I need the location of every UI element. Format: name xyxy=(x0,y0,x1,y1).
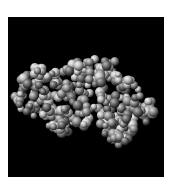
atom-sphere xyxy=(102,61,112,71)
atom-sphere xyxy=(76,82,83,89)
atom-sphere xyxy=(121,137,129,145)
atom-sphere xyxy=(62,84,71,93)
atom-sphere xyxy=(107,118,116,127)
atom-sphere xyxy=(58,121,67,130)
atom-sphere xyxy=(17,91,23,97)
atom-sphere xyxy=(42,103,51,112)
atom-sphere xyxy=(35,81,43,89)
atom-sphere xyxy=(124,75,134,85)
atom-sphere xyxy=(102,123,108,129)
atom-sphere xyxy=(29,92,38,101)
atom-sphere xyxy=(72,117,82,127)
atom-sphere xyxy=(61,105,69,113)
atom-sphere xyxy=(143,118,150,125)
atom-sphere xyxy=(110,57,119,66)
atom-sphere xyxy=(91,104,97,110)
atom-sphere xyxy=(23,108,31,116)
atom-sphere xyxy=(144,97,152,105)
atom-sphere xyxy=(74,61,84,71)
atom-sphere xyxy=(110,98,120,108)
atom-sphere xyxy=(101,130,108,137)
atom-sphere xyxy=(23,79,33,89)
atom-sphere xyxy=(115,77,123,85)
molecule-image-frame xyxy=(8,17,164,177)
atom-sphere xyxy=(73,100,83,110)
atom-sphere xyxy=(16,101,24,109)
atom-sphere xyxy=(115,72,121,78)
protein-space-filling-model xyxy=(8,17,164,177)
atom-sphere xyxy=(133,107,143,117)
atom-sphere xyxy=(97,96,105,104)
atom-sphere xyxy=(40,89,47,96)
atom-sphere xyxy=(80,121,87,128)
atom-sphere xyxy=(82,108,91,117)
atom-sphere xyxy=(86,58,94,66)
atom-sphere xyxy=(122,115,131,124)
atom-sphere xyxy=(130,125,139,134)
atom-sphere xyxy=(96,77,106,87)
atom-sphere xyxy=(34,67,41,74)
atom-sphere xyxy=(50,123,57,130)
atom-sphere xyxy=(148,107,158,117)
atom-sphere xyxy=(50,81,58,89)
atom-sphere xyxy=(65,66,74,75)
atom-sphere xyxy=(136,92,144,100)
